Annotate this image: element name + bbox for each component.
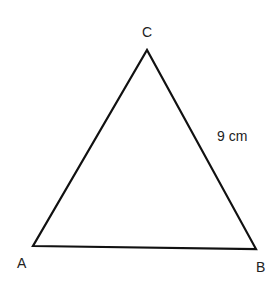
side-label-bc: 9 cm bbox=[217, 129, 247, 143]
vertex-label-b: B bbox=[256, 260, 265, 274]
vertex-label-a: A bbox=[17, 256, 26, 270]
vertex-label-c: C bbox=[142, 25, 152, 39]
triangle-abc bbox=[33, 50, 256, 249]
